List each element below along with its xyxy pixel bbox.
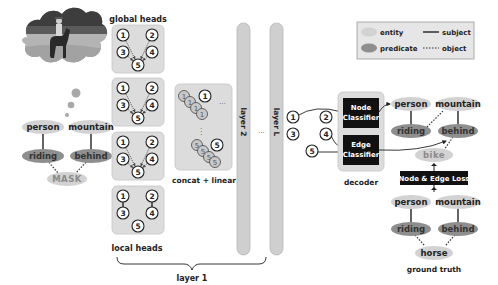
node-classifier <box>343 98 379 128</box>
head-node-label: 5 <box>135 222 140 231</box>
legend: entity predicate subject object <box>357 22 474 59</box>
edge-classifier-label: Edge <box>351 141 371 149</box>
predicate-label: riding <box>397 224 425 234</box>
legend-subject-label: subject <box>442 29 471 37</box>
head-node: 4 <box>146 46 158 58</box>
entity-label: person <box>27 122 60 132</box>
head-node: 4 <box>146 99 158 111</box>
head-node-label: 1 <box>120 84 125 93</box>
head-node-label: 4 <box>149 48 154 57</box>
head-node-label: 3 <box>120 155 125 164</box>
head-node: 1 <box>117 29 129 41</box>
concat-linear-label: concat + linear <box>172 176 236 185</box>
head-node: 2 <box>146 136 158 148</box>
head-node-label: 1 <box>120 31 125 40</box>
head-node-label: 1 <box>120 138 125 147</box>
decoder-input-node: 2 <box>323 113 328 122</box>
layer-L-label: layer L <box>272 108 281 137</box>
head-node: 3 <box>117 46 129 58</box>
entity-label: person <box>395 197 428 207</box>
head-node-label: 4 <box>149 155 154 164</box>
legend-predicate-swatch <box>361 44 377 53</box>
head-node-label: 2 <box>149 138 154 147</box>
predicate-label: behind <box>442 224 475 234</box>
head-node: 2 <box>146 190 158 202</box>
legend-predicate-label: predicate <box>380 45 418 53</box>
ground-truth-object-label: horse <box>421 248 448 258</box>
concat-linear-box: 1 1 1 1 1 ... ⋮ 5 5 5 5 5 <box>175 84 232 170</box>
head-node-label: 5 <box>135 61 140 70</box>
global-heads-label: global heads <box>109 15 167 24</box>
layer-L-bar: layer L <box>270 23 283 255</box>
diagram-canvas: person mountain riding behind MASK globa… <box>0 0 498 285</box>
head-node: 2 <box>146 82 158 94</box>
head-node: 3 <box>117 99 129 111</box>
head-node: 2 <box>146 29 158 41</box>
head-node-label: 3 <box>120 101 125 110</box>
svg-text:1: 1 <box>200 111 204 119</box>
layers-ellipsis: ... <box>258 127 265 135</box>
svg-text:5: 5 <box>213 159 217 167</box>
concat-node-bottom: 5 <box>214 141 219 150</box>
predicate-label: riding <box>397 126 425 136</box>
legend-entity-swatch <box>361 28 377 37</box>
edge-classifier <box>343 135 379 165</box>
head-node-label: 1 <box>120 192 125 201</box>
mask-label: MASK <box>52 174 82 184</box>
head-node: 3 <box>117 153 129 165</box>
node-edge-loss-label: Node & Edge Loss <box>399 175 470 183</box>
entity-label: mountain <box>435 197 481 207</box>
ground-truth-graph: person mountain riding behind horse <box>391 195 481 260</box>
attention-heads: 12345123451234512345 <box>112 25 164 234</box>
concat-node-top: 1 <box>202 92 207 101</box>
head-node: 1 <box>117 190 129 202</box>
decoder-input-node: 5 <box>309 147 314 156</box>
head-node-label: 5 <box>135 168 140 177</box>
entity-label: mountain <box>435 99 481 109</box>
masked-input-graph: person mountain riding behind MASK <box>22 120 114 186</box>
predicted-object-label: bike <box>423 150 445 160</box>
head-node-label: 5 <box>135 114 140 123</box>
head-node-label: 2 <box>149 31 154 40</box>
head-node: 5 <box>132 220 144 232</box>
node-classifier-label: Classifier <box>343 114 380 122</box>
legend-object-label: object <box>442 45 467 53</box>
layer1-brace <box>117 257 266 270</box>
predicate-label: behind <box>75 151 108 161</box>
local-heads-label: local heads <box>112 244 163 253</box>
head-node: 5 <box>132 112 144 124</box>
global-heads-box: 12345 <box>112 132 164 180</box>
decoder-input-node: 3 <box>290 130 295 139</box>
head-node-label: 3 <box>120 209 125 218</box>
ground-truth-label: ground truth <box>407 265 461 274</box>
head-node-label: 3 <box>120 48 125 57</box>
decoder-label: decoder <box>344 178 379 187</box>
decoder-inputs: 1 2 3 4 5 <box>287 109 342 157</box>
node-classifier-label: Node <box>351 104 372 112</box>
head-node: 5 <box>132 166 144 178</box>
legend-entity-label: entity <box>380 29 404 37</box>
predicate-label: behind <box>442 126 475 136</box>
decoder-input-node: 4 <box>323 130 328 139</box>
layer-2-label: layer 2 <box>239 108 248 137</box>
edge-classifier-label: Classifier <box>343 151 380 159</box>
head-node: 3 <box>117 207 129 219</box>
head-node: 4 <box>146 207 158 219</box>
head-node: 5 <box>132 59 144 71</box>
layer-2-bar: layer 2 <box>237 23 250 255</box>
global-heads-box: 12345 <box>112 78 164 126</box>
head-node: 1 <box>117 82 129 94</box>
layer1-label: layer 1 <box>177 274 208 283</box>
head-node: 4 <box>146 153 158 165</box>
decoder-box: Node Classifier Edge Classifier <box>338 92 384 171</box>
entity-label: person <box>395 99 428 109</box>
local-heads-box: 12345 <box>112 186 164 234</box>
thought-image <box>18 4 110 117</box>
entity-label: mountain <box>68 122 114 132</box>
concat-ellipsis: ... <box>219 98 226 106</box>
concat-vertical-ellipsis: ⋮ <box>197 127 205 136</box>
head-node-label: 4 <box>149 101 154 110</box>
head-node-label: 4 <box>149 209 154 218</box>
head-node-label: 2 <box>149 84 154 93</box>
predicted-graph: person mountain riding behind bike <box>391 97 481 162</box>
